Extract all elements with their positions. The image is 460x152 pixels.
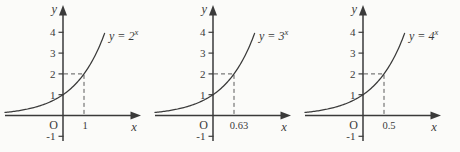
panel-y-equals-2-to-x: yxO4321-11y = 2x [5,2,141,142]
y-tick-label: 1 [350,89,356,101]
x-axis-arrow-icon [431,111,442,119]
x-axis-label: x [430,120,437,134]
y-tick-label: 2 [50,68,56,80]
x-axis-label: x [130,120,137,134]
y-tick-label: 4 [350,26,356,38]
y-axis-arrow-icon [359,5,367,16]
x-axis-arrow-icon [131,111,142,119]
curve-label: y = 4x [408,27,438,43]
y-tick-label: 3 [50,47,56,59]
curve-label: y = 2x [108,27,138,43]
exponential-functions-figure: yxO4321-11y = 2xyxO4321-10.63y = 3xyxO43… [0,0,460,152]
y-axis-label: y [199,2,207,16]
x-axis-label: x [280,120,287,134]
y-tick-label: 3 [200,47,206,59]
y-tick-label: 1 [200,89,206,101]
x-axis-arrow-icon [281,111,292,119]
y-tick-label: -1 [346,130,355,142]
y-tick-label: 3 [350,47,356,59]
y-tick-label: 1 [50,89,56,101]
y-tick-label: 4 [200,26,206,38]
x-tick-label: 0.5 [382,120,395,131]
guide-dashes [364,74,384,115]
y-tick-label: -1 [46,130,55,142]
y-axis-arrow-icon [59,5,67,16]
guide-dashes [64,74,84,115]
x-tick-label: 0.63 [230,120,248,131]
y-axis-label: y [49,2,57,16]
curve-label: y = 3x [258,27,288,43]
x-tick-label: 1 [82,120,87,131]
y-tick-label: 2 [200,68,206,80]
panel-y-equals-4-to-x: yxO4321-10.5y = 4x [305,2,441,142]
y-tick-label: 4 [50,26,56,38]
y-tick-label: 2 [350,68,356,80]
y-axis-label: y [349,2,357,16]
y-tick-label: -1 [196,130,205,142]
y-axis-arrow-icon [209,5,217,16]
graphs-svg: yxO4321-11y = 2xyxO4321-10.63y = 3xyxO43… [0,0,460,152]
panel-y-equals-3-to-x: yxO4321-10.63y = 3x [155,2,291,142]
guide-dashes [214,74,234,115]
